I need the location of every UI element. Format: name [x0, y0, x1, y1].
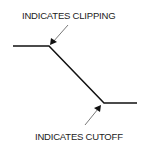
clipping-arrow-icon: [50, 25, 68, 45]
response-curve: [13, 46, 137, 103]
response-curve-diagram: [0, 0, 145, 154]
cutoff-arrow-icon: [85, 105, 101, 125]
